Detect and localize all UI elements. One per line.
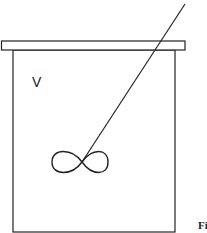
impeller-icon bbox=[52, 152, 108, 173]
stirred-tank-diagram bbox=[0, 0, 207, 233]
volume-label: V bbox=[32, 74, 41, 90]
stirrer-shaft bbox=[82, 4, 185, 162]
figure-caption: Fi bbox=[198, 219, 207, 231]
